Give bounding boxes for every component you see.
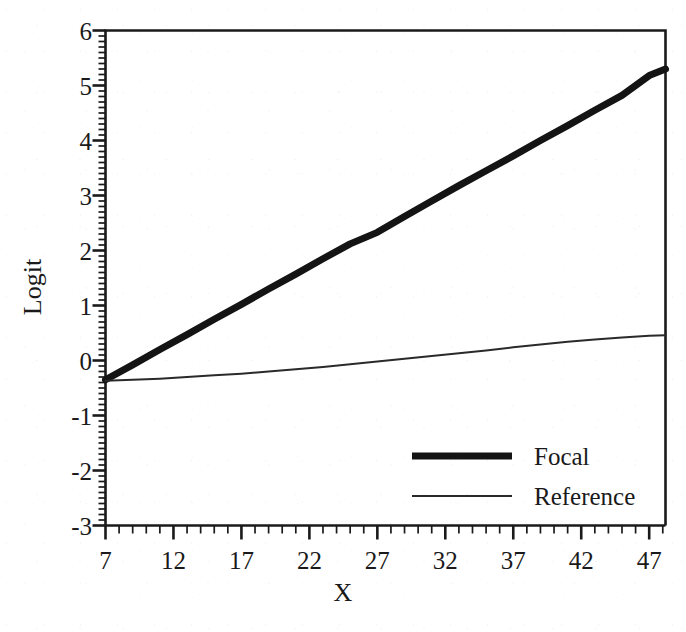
- x-axis-title: X: [0, 578, 686, 608]
- y-tick-label: 4: [40, 128, 92, 153]
- legend-label-focal: Focal: [534, 444, 590, 469]
- logit-chart-figure: 6543210-1-2-3 71217222732374247 Logit X …: [0, 0, 686, 632]
- y-tick-label: -3: [40, 513, 92, 538]
- x-tick-label: 27: [365, 548, 390, 573]
- series-line-focal: [106, 69, 666, 380]
- x-tick-label: 12: [161, 548, 186, 573]
- y-tick-label: 3: [40, 183, 92, 208]
- x-tick-label: 7: [99, 548, 112, 573]
- y-tick-label: -2: [40, 458, 92, 483]
- y-tick-label: 5: [40, 73, 92, 98]
- y-axis-ticks: [93, 31, 106, 526]
- legend-label-reference: Reference: [534, 484, 635, 509]
- data-series-layer: [106, 69, 666, 381]
- x-axis-ticks: [106, 526, 663, 540]
- x-tick-label: 47: [637, 548, 662, 573]
- x-tick-label: 37: [501, 548, 526, 573]
- series-line-reference: [106, 335, 666, 381]
- y-tick-label: -1: [40, 403, 92, 428]
- y-tick-label: 6: [40, 18, 92, 43]
- x-tick-label: 32: [433, 548, 458, 573]
- x-tick-label: 42: [569, 548, 594, 573]
- y-axis-title: Logit: [18, 232, 48, 342]
- plot-canvas: [0, 0, 686, 632]
- legend-swatches: [412, 456, 512, 496]
- y-tick-label: 0: [40, 348, 92, 373]
- x-tick-label: 22: [297, 548, 322, 573]
- x-tick-label: 17: [229, 548, 254, 573]
